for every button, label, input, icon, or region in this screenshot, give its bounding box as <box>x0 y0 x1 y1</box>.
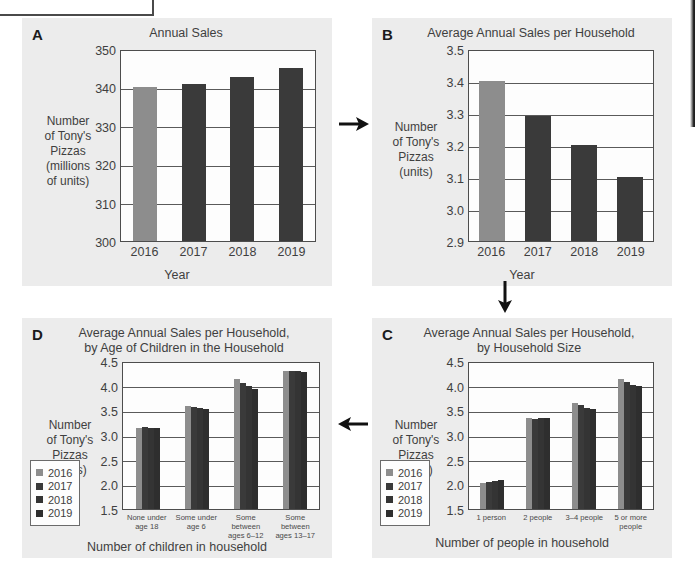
text-line: 5 or more <box>608 513 655 522</box>
x-tick-label: 1 person <box>468 513 515 531</box>
bar-group <box>172 363 221 509</box>
x-tick-label: 2019 <box>608 245 655 259</box>
bar-group <box>515 363 561 509</box>
text-line: Some between <box>271 513 321 531</box>
x-tick-label: 5 or morepeople <box>608 513 655 531</box>
chart-title-b: Average Annual Sales per Household <box>372 26 672 41</box>
x-tick-label: 2016 <box>120 245 169 259</box>
arrow-right-icon <box>339 115 371 133</box>
x-tick-label: 2018 <box>561 245 608 259</box>
y-tick-label: 2.5 <box>101 455 118 469</box>
bar-group <box>607 51 653 241</box>
bar-group <box>607 363 653 509</box>
y-tick-label: 340 <box>95 82 116 96</box>
plot-area-d: 1.52.02.53.03.54.04.5 <box>122 362 320 510</box>
y-tick-label: 3.5 <box>447 44 464 58</box>
y-tick-label: 3.3 <box>447 108 464 122</box>
legend-swatch <box>386 469 393 476</box>
legend-d: 2016201720182019 <box>30 460 80 526</box>
y-tick-label: 2.5 <box>447 455 464 469</box>
y-tick-label: 4.5 <box>447 356 464 370</box>
text-line: people <box>608 522 655 531</box>
bar <box>301 372 307 509</box>
text-line: Average Annual Sales per Household, <box>386 326 672 341</box>
y-tick-label: 2.9 <box>447 236 464 250</box>
legend-label: 2018 <box>48 494 72 506</box>
x-axis-label-d: Number of children in household <box>22 540 332 554</box>
legend-swatch <box>36 469 43 476</box>
x-tick-label: None underage 18 <box>122 513 172 540</box>
bar-series <box>469 363 653 509</box>
y-tick-label: 1.5 <box>101 504 118 518</box>
x-tick-label: 3–4 people <box>561 513 608 531</box>
legend-label: 2017 <box>398 480 422 492</box>
bar <box>544 418 550 509</box>
legend-label: 2018 <box>398 494 422 506</box>
x-tick-label: 2017 <box>515 245 562 259</box>
y-tick-label: 320 <box>95 159 116 173</box>
legend-c: 2016201720182019 <box>380 460 430 526</box>
legend-item: 2017 <box>386 480 422 492</box>
bar-group <box>270 363 319 509</box>
bar-series <box>123 363 319 509</box>
y-tick-label: 4.0 <box>101 381 118 395</box>
text-line: Number <box>376 418 456 433</box>
chart-panel-b: B Average Annual Sales per Household Num… <box>372 18 672 286</box>
y-tick-label: 3.5 <box>101 405 118 419</box>
y-tick-label: 2.0 <box>101 479 118 493</box>
y-tick-label: 3.4 <box>447 76 464 90</box>
bar <box>252 389 258 509</box>
legend-item: 2016 <box>386 467 422 479</box>
x-tick-label: Some betweenages 6–12 <box>221 513 271 540</box>
partial-box-outline <box>0 0 154 16</box>
y-tick-label: 3.5 <box>447 405 464 419</box>
legend-label: 2019 <box>398 507 422 519</box>
bar-group <box>218 51 267 241</box>
text-line: (units) <box>376 165 456 180</box>
bar-group <box>121 51 170 241</box>
bar-group <box>469 363 515 509</box>
plot-area-c: 1.52.02.53.03.54.04.5 <box>468 362 654 510</box>
text-line: by Age of Children in the Household <box>36 341 332 356</box>
x-tick-label: 2018 <box>218 245 267 259</box>
text-line: Some under <box>172 513 222 522</box>
text-line: None under <box>122 513 172 522</box>
bar <box>133 87 157 241</box>
y-tick-label: 4.0 <box>447 381 464 395</box>
text-line: Average Annual Sales per Household, <box>36 326 332 341</box>
x-tick-labels-c: 1 person2 people3–4 people5 or morepeopl… <box>468 513 654 531</box>
bar-group <box>170 51 219 241</box>
chart-panel-d: D Average Annual Sales per Household,by … <box>22 318 332 558</box>
legend-swatch <box>36 510 43 517</box>
bar-series <box>121 51 315 241</box>
bar <box>498 480 504 509</box>
x-axis-label-c: Number of people in household <box>372 536 672 550</box>
bar-group <box>561 363 607 509</box>
text-line: age 6 <box>172 522 222 531</box>
text-line: Some between <box>221 513 271 531</box>
x-axis-label-a: Year <box>22 268 332 282</box>
bar <box>525 116 551 241</box>
plot-area-b: 2.93.03.13.23.33.43.5 <box>468 50 654 242</box>
legend-item: 2017 <box>36 480 72 492</box>
y-tick-label: 2.0 <box>447 479 464 493</box>
legend-item: 2016 <box>36 467 72 479</box>
bar <box>203 409 209 509</box>
text-line: ages 13–17 <box>271 531 321 540</box>
bar <box>230 77 254 241</box>
y-tick-label: 300 <box>95 236 116 250</box>
legend-item: 2019 <box>386 507 422 519</box>
bar <box>617 177 643 241</box>
text-line: Pizzas <box>28 144 108 159</box>
y-tick-label: 1.5 <box>447 504 464 518</box>
bar <box>636 386 642 509</box>
y-tick-label: 3.0 <box>447 204 464 218</box>
x-tick-labels-d: None underage 18Some underage 6Some betw… <box>122 513 320 540</box>
chart-title-d: Average Annual Sales per Household,by Ag… <box>22 326 332 356</box>
bar <box>154 428 160 509</box>
bar-group <box>561 51 607 241</box>
text-line: Number <box>28 418 112 433</box>
bar-group <box>267 51 316 241</box>
x-tick-label: 2016 <box>468 245 515 259</box>
text-line: of units) <box>28 174 108 189</box>
